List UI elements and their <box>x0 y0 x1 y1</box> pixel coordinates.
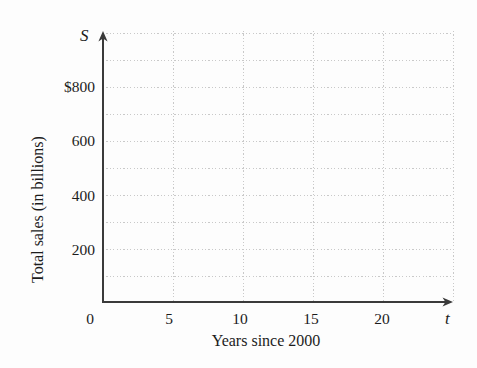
x-axis <box>102 297 453 306</box>
x-tick-label-0: 0 <box>86 311 94 327</box>
x-axis-title: Years since 2000 <box>212 333 321 349</box>
x-tick-label-20: 20 <box>374 311 390 327</box>
vertical-gridlines <box>173 31 453 302</box>
chart-container: S t $800 600 400 200 0 5 10 15 20 Total … <box>0 0 477 368</box>
y-axis-variable-label: S <box>80 27 89 44</box>
y-tick-label-600: 600 <box>38 134 95 150</box>
y-tick-label-800: $800 <box>38 79 95 95</box>
y-axis <box>98 31 107 303</box>
x-tick-label-15: 15 <box>303 311 319 327</box>
y-axis-title: Total sales (in billions) <box>30 136 46 283</box>
x-axis-variable-label: t <box>445 310 450 327</box>
y-tick-label-200: 200 <box>38 242 95 258</box>
x-tick-label-5: 5 <box>165 311 173 327</box>
x-tick-label-10: 10 <box>232 311 248 327</box>
y-tick-label-400: 400 <box>38 188 95 204</box>
horizontal-gridlines <box>103 33 453 277</box>
